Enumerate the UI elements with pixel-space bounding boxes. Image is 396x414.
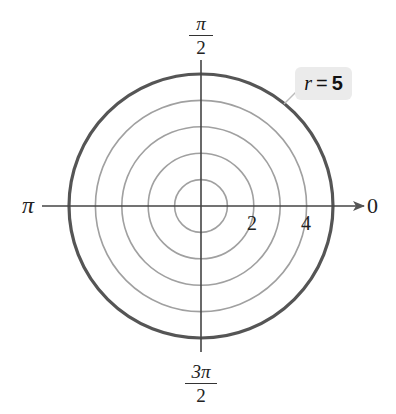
callout-variable: r [304,72,312,95]
radial-tick-2: 2 [247,212,257,235]
angle-label-top-den: 2 [189,36,213,57]
angle-label-top-num: π [189,14,213,36]
angle-label-3pi-over-2: 3π 2 [185,362,217,405]
angle-label-bottom-num: 3π [185,362,217,384]
callout-equals: = [316,72,328,95]
equation-callout: r = 5 [295,67,352,100]
callout-value: 5 [332,72,343,95]
angle-label-bottom-den: 2 [185,384,217,405]
angle-label-pi: π [22,192,34,219]
radial-tick-4: 4 [301,212,311,235]
angle-label-pi-over-2: π 2 [189,14,213,57]
polar-graph [0,0,396,414]
angle-label-zero: 0 [367,193,378,219]
